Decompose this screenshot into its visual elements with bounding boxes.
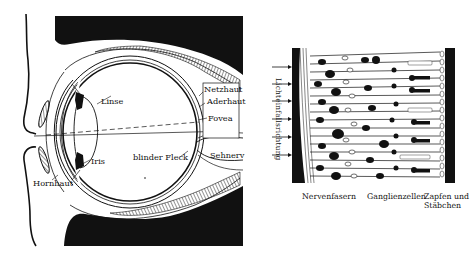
- arrow-icon: [272, 65, 292, 69]
- arrow-icon: [272, 82, 292, 86]
- light-arrows: [272, 65, 292, 157]
- label-cornea: Hornhaut: [33, 178, 74, 188]
- arrow-icon: [272, 117, 292, 121]
- bipolar-cells: [342, 56, 357, 178]
- arrow-icon: [272, 153, 292, 157]
- arrow-icon: [272, 99, 292, 103]
- eye-illustration: Linse Iris Hornhaut Netzhaut Aderhaut Fo…: [0, 0, 250, 256]
- label-choroid: Aderhaut: [206, 96, 246, 106]
- pigment-epithelium: [445, 48, 455, 183]
- retina-illustration: [250, 0, 472, 256]
- label-optic-nerve: Sehnerv: [210, 150, 245, 160]
- face-profile-outline: [24, 14, 36, 134]
- label-ganglion-cells: Ganglienzellen: [367, 192, 426, 201]
- label-nerve-fibers: Nervenfasern: [302, 192, 356, 201]
- label-iris: Iris: [91, 156, 105, 166]
- eye-cross-section-diagram: Linse Iris Hornhaut Netzhaut Aderhaut Fo…: [0, 0, 250, 256]
- label-cones-rods-line1: Zapfen und: [424, 192, 469, 201]
- retina-layers-diagram: Lichteinfallsrichtung: [250, 0, 472, 256]
- label-retina: Netzhaut: [204, 84, 243, 94]
- label-fovea: Fovea: [208, 113, 233, 123]
- label-cones-rods-line2: Stäbchen: [424, 201, 461, 210]
- label-blind-spot: blinder Fleck: [133, 152, 189, 162]
- ganglion-cells: [314, 56, 389, 180]
- arrow-icon: [272, 135, 292, 139]
- label-lens: Linse: [101, 96, 124, 106]
